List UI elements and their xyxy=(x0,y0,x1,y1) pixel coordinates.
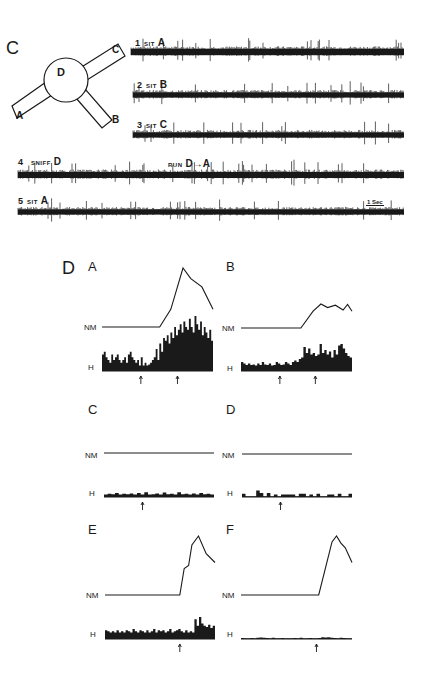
event-arrow-icon xyxy=(178,644,181,652)
event-arrow-icon xyxy=(314,376,317,384)
event-arrow-icon xyxy=(315,644,318,652)
event-arrow-icon xyxy=(141,502,144,510)
event-arrow-icon xyxy=(278,376,281,384)
event-arrow-icon xyxy=(176,376,179,384)
panel-d-plots xyxy=(0,0,426,679)
event-arrow-icon xyxy=(139,376,142,384)
event-arrow-icon xyxy=(279,502,282,510)
